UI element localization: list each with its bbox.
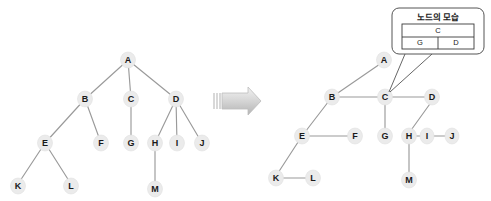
node-E[interactable]: E — [38, 135, 53, 151]
edge-A-B — [332, 64, 380, 97]
left-tree-group: A B C D E — [11, 52, 210, 197]
node-J[interactable]: J — [195, 135, 210, 151]
node-label: C — [128, 94, 135, 104]
right-tree-group: A B C D E — [269, 52, 460, 188]
node-K[interactable]: K — [269, 170, 284, 186]
node-label: B — [329, 92, 336, 102]
node-A[interactable]: A — [377, 52, 392, 68]
node-label: K — [15, 181, 22, 191]
node-label: I — [176, 138, 179, 148]
node-label: A — [381, 55, 388, 65]
node-label: M — [151, 184, 159, 194]
node-K[interactable]: K — [11, 178, 26, 194]
node-label: E — [42, 138, 48, 148]
node-shape-callout: 노드의 모습 C G D — [389, 8, 484, 92]
node-label: I — [426, 131, 429, 141]
table-cell-left-child: G — [417, 38, 423, 47]
node-label: F — [98, 138, 104, 148]
node-label: K — [273, 173, 280, 183]
node-label: H — [406, 131, 413, 141]
node-F[interactable]: F — [94, 135, 109, 151]
node-D[interactable]: D — [425, 89, 440, 105]
node-G[interactable]: G — [378, 128, 393, 144]
table-cell-right-sibling: D — [453, 38, 459, 47]
node-label: E — [299, 131, 305, 141]
node-label: H — [152, 138, 159, 148]
node-label: J — [449, 131, 454, 141]
tree-diagram-figure: A B C D E — [0, 0, 491, 201]
node-D[interactable]: D — [169, 91, 184, 107]
edge-B-E — [45, 99, 85, 143]
node-label: M — [405, 175, 413, 185]
node-A[interactable]: A — [121, 52, 136, 68]
node-C[interactable]: C — [124, 91, 139, 107]
node-L[interactable]: L — [306, 170, 321, 186]
node-label: L — [68, 181, 74, 191]
table-cell-data: C — [435, 26, 441, 35]
callout-title: 노드의 모습 — [417, 12, 459, 22]
node-M[interactable]: M — [148, 181, 163, 197]
callout-pointer-line-right — [390, 54, 432, 92]
node-H[interactable]: H — [402, 128, 417, 144]
node-B[interactable]: B — [78, 91, 93, 107]
node-label: F — [352, 131, 358, 141]
node-label: G — [381, 131, 388, 141]
node-label: J — [199, 138, 204, 148]
node-M[interactable]: M — [402, 172, 417, 188]
node-label: L — [310, 173, 316, 183]
left-tree-edges — [18, 60, 202, 187]
node-label: A — [125, 55, 132, 65]
right-tree-edges — [276, 64, 452, 178]
node-label: C — [382, 92, 389, 102]
node-J[interactable]: J — [445, 128, 459, 144]
node-I[interactable]: I — [420, 128, 434, 144]
node-F[interactable]: F — [348, 128, 363, 144]
node-E[interactable]: E — [295, 128, 310, 144]
node-L[interactable]: L — [64, 178, 79, 194]
edge-A-B — [85, 60, 128, 99]
node-label: G — [127, 138, 134, 148]
node-I[interactable]: I — [170, 135, 185, 151]
node-B[interactable]: B — [325, 89, 340, 105]
figure-canvas: A B C D E — [0, 0, 491, 201]
left-tree-nodes: A B C D E — [11, 52, 210, 197]
right-tree-nodes: A B C D E — [269, 52, 460, 188]
transform-arrow-icon — [214, 87, 261, 115]
node-G[interactable]: G — [124, 135, 139, 151]
node-H[interactable]: H — [148, 135, 163, 151]
node-label: D — [429, 92, 436, 102]
node-label: D — [173, 94, 180, 104]
node-label: B — [82, 94, 89, 104]
